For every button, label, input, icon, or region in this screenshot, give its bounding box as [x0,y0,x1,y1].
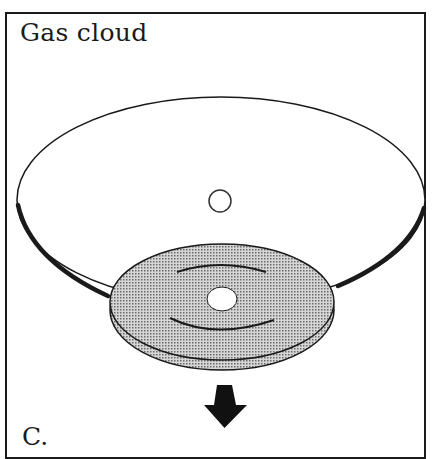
accretion-disk [110,244,334,370]
gas-cloud-scene [0,0,434,459]
central-core-circle [209,190,231,212]
panel-label: C. [22,422,48,451]
down-arrow-icon [204,385,247,428]
